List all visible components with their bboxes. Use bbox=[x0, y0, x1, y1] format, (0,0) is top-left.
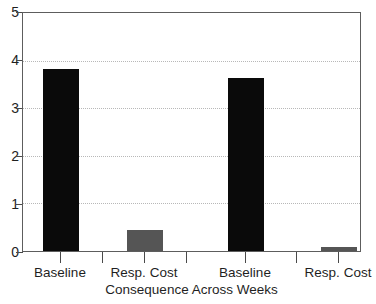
x-tick-label-resp-cost-2: Resp. Cost bbox=[305, 265, 372, 281]
x-axis-ticks bbox=[22, 252, 361, 264]
y-axis: 5 4 3 2 1 0 bbox=[0, 0, 19, 304]
bar-baseline-1 bbox=[43, 69, 79, 251]
bar-baseline-2 bbox=[228, 78, 264, 251]
plot-area bbox=[22, 12, 361, 252]
x-tick-mark-2 bbox=[102, 252, 103, 263]
x-tick-mark-6 bbox=[296, 252, 297, 263]
gridline-4 bbox=[23, 61, 360, 62]
x-tick-mark-7 bbox=[338, 252, 339, 263]
x-tick-label-baseline-2: Baseline bbox=[219, 265, 271, 281]
x-tick-label-baseline-1: Baseline bbox=[34, 265, 86, 281]
x-tick-mark-5 bbox=[245, 252, 246, 263]
bar-resp-cost-1 bbox=[127, 230, 163, 251]
x-axis-title: Consequence Across Weeks bbox=[22, 282, 361, 298]
bar-resp-cost-2 bbox=[321, 247, 357, 251]
x-tick-mark-3 bbox=[144, 252, 145, 263]
x-tick-label-resp-cost-1: Resp. Cost bbox=[111, 265, 178, 281]
x-tick-mark-1 bbox=[60, 252, 61, 263]
bar-chart-figure: 5 4 3 2 1 0 Baseline bbox=[0, 0, 376, 304]
x-tick-mark-4 bbox=[186, 252, 187, 263]
